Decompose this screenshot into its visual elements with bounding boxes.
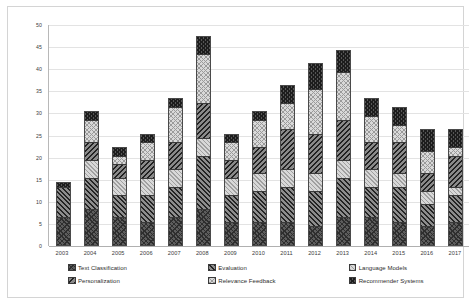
- bar-column-2012[interactable]: [301, 25, 329, 246]
- bar-segment[interactable]: [141, 161, 154, 179]
- legend-item[interactable]: Text Classification: [48, 261, 188, 274]
- bar-segment[interactable]: [225, 143, 238, 161]
- bar-segment[interactable]: [421, 192, 434, 205]
- bar-segment[interactable]: [225, 223, 238, 245]
- bar-stack[interactable]: [56, 182, 71, 246]
- bar-column-2004[interactable]: [77, 25, 105, 246]
- bar-segment[interactable]: [197, 210, 210, 245]
- bar-segment[interactable]: [449, 196, 462, 223]
- bar-segment[interactable]: [365, 117, 378, 144]
- bar-segment[interactable]: [281, 223, 294, 245]
- bar-segment[interactable]: [169, 188, 182, 219]
- bar-segment[interactable]: [253, 121, 266, 148]
- bar-segment[interactable]: [281, 104, 294, 131]
- bar-column-2015[interactable]: [385, 25, 413, 246]
- bar-stack[interactable]: [84, 111, 99, 246]
- bar-stack[interactable]: [112, 147, 127, 246]
- bar-segment[interactable]: [309, 135, 322, 175]
- bar-segment[interactable]: [337, 121, 350, 161]
- bar-segment[interactable]: [337, 73, 350, 122]
- bar-stack[interactable]: [308, 63, 323, 246]
- bar-column-2017[interactable]: [441, 25, 469, 246]
- bar-segment[interactable]: [253, 192, 266, 223]
- bar-segment[interactable]: [253, 223, 266, 245]
- bar-column-2010[interactable]: [245, 25, 273, 246]
- bar-segment[interactable]: [141, 223, 154, 245]
- bar-column-2005[interactable]: [105, 25, 133, 246]
- bar-column-2003[interactable]: [49, 25, 77, 246]
- legend-item[interactable]: Evaluation: [188, 261, 328, 274]
- bar-stack[interactable]: [420, 129, 435, 246]
- bar-segment[interactable]: [113, 148, 126, 157]
- bar-segment[interactable]: [365, 170, 378, 188]
- bar-segment[interactable]: [421, 205, 434, 227]
- bar-segment[interactable]: [449, 157, 462, 188]
- bar-segment[interactable]: [85, 121, 98, 143]
- bar-segment[interactable]: [393, 188, 406, 223]
- bar-segment[interactable]: [253, 112, 266, 121]
- bar-segment[interactable]: [365, 218, 378, 245]
- bar-segment[interactable]: [85, 112, 98, 121]
- bar-stack[interactable]: [196, 36, 211, 246]
- bar-segment[interactable]: [421, 174, 434, 192]
- bar-stack[interactable]: [252, 111, 267, 246]
- bar-segment[interactable]: [281, 130, 294, 170]
- legend-item[interactable]: Recommender Systems: [329, 274, 469, 287]
- bar-segment[interactable]: [253, 148, 266, 175]
- bar-segment[interactable]: [449, 223, 462, 245]
- legend-item[interactable]: Language Models: [329, 261, 469, 274]
- bar-segment[interactable]: [449, 130, 462, 148]
- bar-segment[interactable]: [421, 227, 434, 245]
- bar-segment[interactable]: [449, 188, 462, 197]
- bar-segment[interactable]: [393, 143, 406, 174]
- bar-segment[interactable]: [197, 55, 210, 104]
- bar-segment[interactable]: [85, 143, 98, 161]
- bar-segment[interactable]: [197, 157, 210, 210]
- bar-segment[interactable]: [393, 126, 406, 144]
- bar-column-2009[interactable]: [217, 25, 245, 246]
- bar-segment[interactable]: [421, 130, 434, 152]
- bar-segment[interactable]: [253, 174, 266, 192]
- bar-segment[interactable]: [281, 86, 294, 104]
- bar-stack[interactable]: [224, 134, 239, 246]
- bar-segment[interactable]: [57, 188, 70, 219]
- bar-stack[interactable]: [448, 129, 463, 246]
- bar-column-2006[interactable]: [133, 25, 161, 246]
- bar-segment[interactable]: [337, 179, 350, 219]
- bar-column-2016[interactable]: [413, 25, 441, 246]
- bar-segment[interactable]: [309, 64, 322, 91]
- bar-segment[interactable]: [281, 188, 294, 223]
- bar-segment[interactable]: [85, 161, 98, 179]
- bar-column-2007[interactable]: [161, 25, 189, 246]
- bar-segment[interactable]: [393, 174, 406, 187]
- bar-segment[interactable]: [113, 218, 126, 245]
- bar-segment[interactable]: [393, 108, 406, 126]
- bar-segment[interactable]: [169, 143, 182, 170]
- bar-stack[interactable]: [336, 50, 351, 246]
- bar-segment[interactable]: [225, 161, 238, 179]
- bar-segment[interactable]: [309, 174, 322, 192]
- bar-segment[interactable]: [337, 218, 350, 245]
- bar-segment[interactable]: [337, 51, 350, 73]
- bar-segment[interactable]: [365, 143, 378, 170]
- bar-column-2008[interactable]: [189, 25, 217, 246]
- bar-segment[interactable]: [225, 196, 238, 223]
- bar-segment[interactable]: [365, 99, 378, 117]
- bar-segment[interactable]: [85, 210, 98, 245]
- bar-stack[interactable]: [280, 85, 295, 246]
- bar-stack[interactable]: [168, 98, 183, 246]
- bar-segment[interactable]: [309, 90, 322, 134]
- bar-segment[interactable]: [57, 218, 70, 245]
- bar-segment[interactable]: [169, 99, 182, 108]
- bar-segment[interactable]: [113, 196, 126, 218]
- bar-segment[interactable]: [169, 170, 182, 188]
- bar-stack[interactable]: [364, 98, 379, 246]
- bar-column-2013[interactable]: [329, 25, 357, 246]
- bar-segment[interactable]: [141, 143, 154, 161]
- legend-item[interactable]: Relevance Feedback: [188, 274, 328, 287]
- bar-segment[interactable]: [197, 139, 210, 157]
- bar-segment[interactable]: [113, 165, 126, 178]
- bar-segment[interactable]: [141, 135, 154, 144]
- bar-segment[interactable]: [309, 192, 322, 227]
- bar-segment[interactable]: [393, 223, 406, 245]
